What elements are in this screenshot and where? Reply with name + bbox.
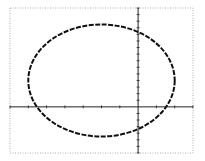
curves bbox=[28, 24, 174, 136]
ellipse-curve bbox=[28, 24, 174, 136]
window-frame bbox=[10, 8, 193, 153]
calculator-graph bbox=[0, 0, 205, 161]
